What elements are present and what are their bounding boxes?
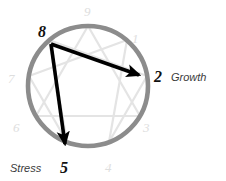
faint-number-9: 9 (84, 4, 91, 19)
growth-label: Growth (171, 72, 206, 83)
faint-number-7: 7 (8, 71, 15, 86)
point-label-2: 2 (154, 69, 162, 85)
stress-label: Stress (10, 163, 41, 174)
faint-number-4: 4 (105, 160, 112, 175)
enneagram-canvas: 9 1 3 4 6 7 (0, 0, 226, 181)
enneagram-circle (28, 26, 148, 146)
faint-number-6: 6 (13, 120, 20, 135)
enneagram-diagram: 9 1 3 4 6 7 8 2 5 Growth Stress (0, 0, 226, 181)
point-label-5: 5 (60, 160, 68, 176)
faint-number-3: 3 (142, 120, 150, 135)
stress-arrow (51, 44, 65, 144)
faint-number-1: 1 (132, 31, 139, 46)
point-label-8: 8 (38, 24, 46, 40)
